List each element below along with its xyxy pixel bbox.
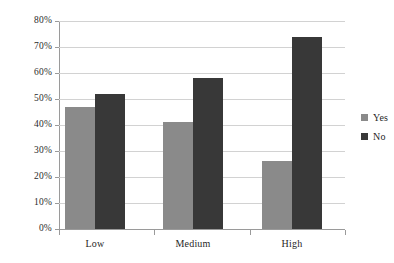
bar-low-no [95, 94, 125, 229]
x-axis-tick [345, 230, 346, 235]
y-axis-label: 70% [8, 42, 52, 52]
legend-swatch-icon-yes [361, 114, 368, 121]
legend-label-yes: Yes [373, 113, 388, 123]
y-axis-label: 10% [8, 198, 52, 208]
y-axis-label: 60% [8, 68, 52, 78]
x-axis-tick [154, 230, 155, 235]
x-axis-tick [59, 230, 60, 235]
bar-high-yes [262, 161, 292, 229]
plot-area [59, 21, 345, 229]
y-axis-label: 20% [8, 172, 52, 182]
legend-item-yes: Yes [361, 108, 388, 127]
x-axis-label-high: High [282, 238, 303, 249]
gridline [59, 21, 345, 22]
x-axis-label-medium: Medium [175, 238, 210, 249]
bar-low-yes [65, 107, 95, 229]
x-axis-line [59, 229, 345, 230]
y-axis-label: 0% [8, 224, 52, 234]
bar-medium-no [193, 78, 223, 229]
bar-high-no [292, 37, 322, 229]
y-axis-label: 50% [8, 94, 52, 104]
bar-chart: 80% 70% 60% 50% 40% 30% 20% 10% 0% [0, 0, 394, 263]
y-axis-label: 80% [8, 16, 52, 26]
legend-label-no: No [373, 132, 386, 142]
x-axis-tick [250, 230, 251, 235]
legend-item-no: No [361, 127, 388, 146]
y-axis-labels: 80% 70% 60% 50% 40% 30% 20% 10% 0% [0, 0, 52, 263]
y-axis-label: 40% [8, 120, 52, 130]
x-axis-label-low: Low [86, 238, 105, 249]
y-axis-label: 30% [8, 146, 52, 156]
bar-medium-yes [163, 122, 193, 229]
legend: Yes No [361, 108, 388, 146]
legend-swatch-icon-no [361, 133, 368, 140]
